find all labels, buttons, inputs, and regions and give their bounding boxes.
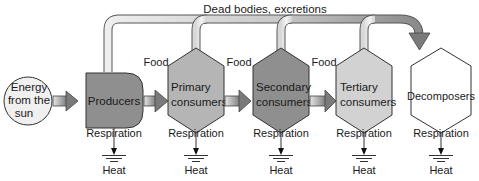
arrow-down-icon (193, 148, 199, 155)
food-label-3: Food (311, 56, 336, 68)
food-chain-diagram: Dead bodies, excretions Energy from the … (0, 0, 479, 181)
secondary-label-line1: Secondary (256, 81, 311, 93)
respiration-label: Respiration (86, 127, 142, 139)
heat-label: Heat (102, 164, 125, 176)
sun-label-line3: sun (15, 107, 34, 119)
arrow-producers-to-primary (144, 90, 168, 112)
primary-label-line1: Primary (171, 81, 211, 93)
arrow-down-icon (278, 148, 284, 155)
primary-label-line2: consumers (171, 96, 227, 108)
heat-label: Heat (184, 164, 207, 176)
tertiary-label-line1: Tertiary (340, 81, 378, 93)
output-primary: Respiration Heat (168, 127, 224, 176)
arrow-primary-to-secondary (225, 90, 251, 112)
output-decomposers: Respiration Heat (413, 127, 469, 176)
secondary-label-line2: consumers (256, 96, 312, 108)
sun-label-line2: from the (8, 94, 50, 106)
output-tertiary: Respiration Heat (336, 127, 392, 176)
dead-bodies-label: Dead bodies, excretions (203, 3, 327, 15)
output-producers: Respiration Heat (86, 127, 142, 176)
tertiary-label-line2: consumers (340, 96, 396, 108)
output-secondary: Respiration Heat (253, 127, 309, 176)
respiration-label: Respiration (413, 127, 469, 139)
decomposers-label: Decomposers (407, 90, 475, 102)
arrow-sun-to-producers (53, 91, 78, 111)
respiration-label: Respiration (336, 127, 392, 139)
sun-label-line1: Energy (11, 81, 48, 93)
heat-label: Heat (429, 164, 452, 176)
respiration-label: Respiration (253, 127, 309, 139)
respiration-label: Respiration (168, 127, 224, 139)
arrow-secondary-to-tertiary (310, 90, 336, 112)
heat-label: Heat (352, 164, 375, 176)
food-label-2: Food (226, 56, 251, 68)
producers-label: Producers (88, 95, 141, 107)
arrow-down-icon (361, 148, 367, 155)
arrow-down-icon (111, 148, 117, 155)
arrow-down-icon (409, 33, 430, 50)
food-label-1: Food (143, 56, 168, 68)
arrow-down-icon (438, 148, 444, 155)
heat-label: Heat (269, 164, 292, 176)
node-sun: Energy from the sun (4, 77, 52, 125)
